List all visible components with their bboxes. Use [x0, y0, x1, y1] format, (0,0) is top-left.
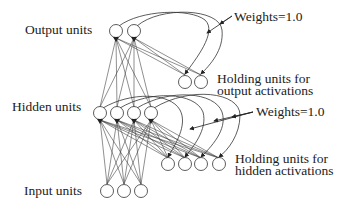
output-units-label: Output units — [25, 24, 92, 36]
hidden-unit-node — [128, 107, 141, 120]
input-unit-node — [101, 185, 114, 198]
hidden-holding-unit-node — [162, 158, 175, 171]
hidden-unit-node — [111, 107, 124, 120]
srn-diagram: Output units Weights=1.0 Holding units f… — [0, 0, 341, 212]
weights-top-label: Weights=1.0 — [234, 11, 302, 23]
hidden-holding-unit-node — [179, 158, 192, 171]
output-unit-node — [110, 25, 123, 38]
hidden-holding-unit-node — [195, 158, 208, 171]
output-holding-unit-node — [195, 76, 208, 89]
input-unit-node — [135, 185, 148, 198]
hidden-unit-node — [94, 107, 107, 120]
holding-output-label-line2: output activations — [217, 85, 313, 97]
holding-hidden-label-line2: hidden activations — [235, 165, 334, 177]
weights-bottom-label: Weights=1.0 — [256, 106, 324, 118]
hidden-units-label: Hidden units — [12, 101, 81, 113]
output-holding-unit-node — [179, 76, 192, 89]
input-unit-node — [118, 185, 131, 198]
hidden-unit-node — [145, 107, 158, 120]
output-unit-node — [128, 25, 141, 38]
input-units-label: Input units — [24, 185, 82, 197]
hidden-holding-unit-node — [213, 158, 226, 171]
